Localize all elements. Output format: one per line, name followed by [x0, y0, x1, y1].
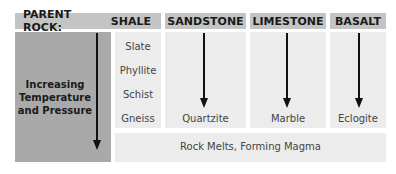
header-parent-rock: PARENT ROCK: SHALE	[15, 13, 161, 29]
header-sandstone: SANDSTONE	[165, 13, 246, 29]
side-label-text: Increasing Temperature and Pressure	[15, 78, 95, 117]
shale-item-phyllite: Phyllite	[115, 65, 161, 76]
magma-bar: Rock Melts, Forming Magma	[115, 133, 386, 162]
product-quartzite: Quartzite	[165, 113, 246, 124]
side-label-box: Increasing Temperature and Pressure	[15, 32, 111, 162]
product-marble: Marble	[250, 113, 326, 124]
shale-item-slate: Slate	[115, 41, 161, 52]
basalt-column: Eclogite	[330, 32, 386, 128]
parent-rock-label: PARENT ROCK:	[23, 8, 111, 34]
limestone-column: Marble	[250, 32, 326, 128]
shale-item-gneiss: Gneiss	[115, 113, 161, 124]
header-basalt: BASALT	[330, 13, 386, 29]
sandstone-column: Quartzite	[165, 32, 246, 128]
header-limestone-label: LIMESTONE	[252, 15, 323, 28]
magma-bar-label: Rock Melts, Forming Magma	[115, 141, 386, 152]
header-sandstone-label: SANDSTONE	[167, 15, 243, 28]
shale-column: Slate Phyllite Schist Gneiss	[115, 32, 161, 128]
header-limestone: LIMESTONE	[250, 13, 326, 29]
product-eclogite: Eclogite	[330, 113, 386, 124]
header-basalt-label: BASALT	[335, 15, 381, 28]
header-shale: SHALE	[111, 15, 151, 28]
shale-item-schist: Schist	[115, 89, 161, 100]
